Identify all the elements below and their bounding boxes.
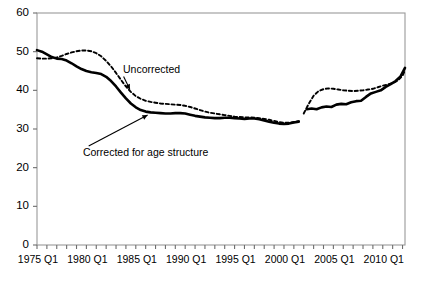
y-tick-label: 20 xyxy=(16,161,29,173)
y-tick-label: 40 xyxy=(16,83,29,95)
data-series-group xyxy=(37,50,405,124)
series-line-uncorrected xyxy=(37,51,299,123)
x-tick-label: 2010 Q1 xyxy=(364,253,404,265)
x-tick-label: 1975 Q1 xyxy=(18,253,58,265)
chart-figure: 0102030405060 1975 Q11980 Q11985 Q11990 … xyxy=(0,0,428,285)
x-axis: 1975 Q11980 Q11985 Q11990 Q11995 Q12000 … xyxy=(18,245,404,265)
series-line-corrected xyxy=(307,68,405,109)
series-line-corrected xyxy=(37,50,299,124)
x-tick-label: 2000 Q1 xyxy=(265,253,305,265)
plot-frame xyxy=(37,13,405,245)
annotation-corrected-for-age-structure-label: Corrected for age structure xyxy=(83,146,209,158)
y-tick-label: 60 xyxy=(16,6,29,18)
plot-border xyxy=(37,13,405,245)
y-tick-label: 30 xyxy=(16,122,29,134)
y-tick-label: 10 xyxy=(16,199,29,211)
x-tick-label: 2005 Q1 xyxy=(314,253,354,265)
annotation-uncorrected-label: Uncorrected xyxy=(123,63,180,75)
line-chart: 0102030405060 1975 Q11980 Q11985 Q11990 … xyxy=(0,0,428,285)
y-tick-label: 50 xyxy=(16,45,29,57)
annotation-corrected-for-age-structure-arrow-line xyxy=(89,115,148,146)
y-axis: 0102030405060 xyxy=(16,6,37,250)
x-tick-label: 1980 Q1 xyxy=(67,253,107,265)
x-tick-label: 1995 Q1 xyxy=(215,253,255,265)
x-tick-label: 1985 Q1 xyxy=(117,253,157,265)
y-tick-label: 0 xyxy=(23,238,29,250)
x-tick-label: 1990 Q1 xyxy=(166,253,206,265)
